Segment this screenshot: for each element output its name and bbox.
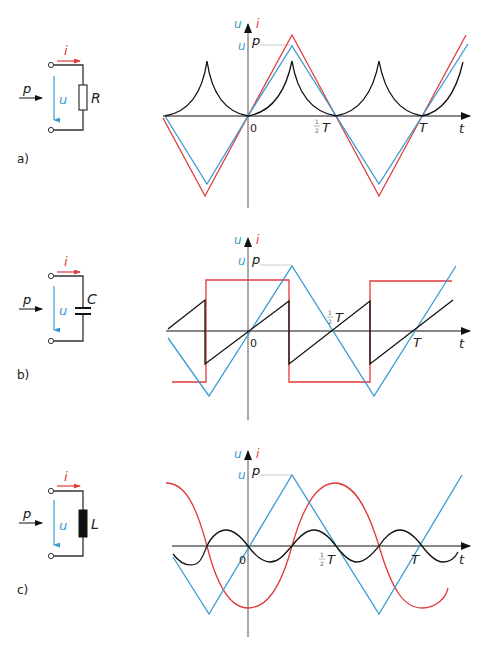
series-p	[165, 61, 463, 116]
half-den: 2	[328, 318, 332, 325]
x-label: t	[459, 336, 465, 351]
chart-b: u i u p 0 1 2 T T t	[166, 233, 470, 420]
half-num: 1	[315, 118, 319, 125]
panel-c: i u p L c) u i u p 0 1 2 T T t	[17, 447, 470, 637]
y-tick-p: p	[251, 33, 260, 48]
x-label: t	[459, 552, 465, 567]
figure-canvas: i u p R a) u i u p 0 1 2 T T t	[0, 0, 491, 649]
power-label: p	[22, 292, 31, 307]
voltage-label: u	[59, 92, 67, 107]
half-den: 2	[320, 560, 324, 567]
y-tick-u: u	[238, 39, 246, 53]
current-label: i	[64, 254, 68, 269]
series-u	[165, 44, 468, 184]
terminal-top	[48, 488, 53, 493]
y-tick-p: p	[251, 252, 260, 267]
half-period-T: T	[322, 120, 331, 135]
power-label: p	[22, 81, 31, 96]
resistor-icon	[79, 85, 87, 110]
power-label: p	[22, 506, 31, 521]
component-symbol: R	[91, 90, 101, 106]
current-label: i	[64, 43, 68, 58]
y-label-u: u	[234, 233, 242, 247]
panel-label: b)	[17, 368, 29, 382]
terminal-top	[48, 273, 53, 278]
y-tick-u: u	[238, 468, 246, 482]
y-label-i: i	[256, 233, 260, 247]
y-label-u: u	[234, 447, 242, 461]
half-den: 2	[315, 127, 319, 134]
circuit-b: i u p C	[19, 254, 97, 344]
origin-label: 0	[250, 122, 257, 135]
y-label-u: u	[234, 17, 242, 31]
origin-label: 0	[250, 337, 257, 350]
period-label: T	[419, 120, 428, 135]
inductor-icon	[79, 510, 87, 537]
component-symbol: C	[87, 291, 97, 307]
panel-a: i u p R a) u i u p 0 1 2 T T t	[17, 17, 470, 208]
x-label: t	[459, 121, 465, 136]
y-tick-u: u	[238, 254, 246, 268]
terminal-bottom	[48, 338, 53, 343]
period-label: T	[413, 335, 422, 350]
half-period-T: T	[327, 552, 336, 567]
y-label-i: i	[256, 447, 260, 461]
y-tick-p: p	[251, 463, 260, 478]
y-label-i: i	[256, 17, 260, 31]
panel-label: c)	[17, 583, 28, 597]
voltage-label: u	[59, 518, 67, 533]
half-num: 1	[320, 551, 324, 558]
panel-label: a)	[17, 152, 29, 166]
origin-label: 0	[239, 554, 246, 567]
series-p	[168, 300, 453, 364]
current-label: i	[64, 469, 68, 484]
half-period-T: T	[335, 310, 344, 325]
series-u	[173, 475, 462, 614]
period-label: T	[411, 552, 420, 567]
chart-c: u i u p 0 1 2 T T t	[166, 447, 470, 637]
circuit-c: i u p L	[19, 469, 99, 559]
voltage-label: u	[59, 303, 67, 318]
panel-b: i u p C b) u i u p 0 1 2 T T t	[17, 233, 470, 420]
terminal-bottom	[48, 127, 53, 132]
circuit-a: i u p R	[19, 43, 101, 133]
chart-a: u i u p 0 1 2 T T t	[163, 17, 470, 208]
terminal-bottom	[48, 553, 53, 558]
component-symbol: L	[91, 516, 99, 532]
terminal-top	[48, 62, 53, 67]
half-num: 1	[328, 309, 332, 316]
